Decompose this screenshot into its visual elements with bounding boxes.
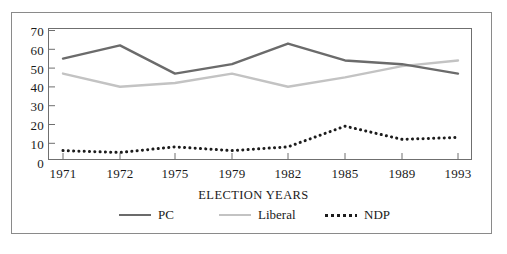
chart-legend: PC Liberal NDP — [0, 208, 507, 230]
legend-label-liberal: Liberal — [258, 208, 296, 222]
x-tick-label: 1982 — [275, 167, 302, 181]
chart-figure: 70 60 50 40 30 20 10 0 — [0, 0, 507, 254]
x-tick-label: 1993 — [445, 167, 472, 181]
x-axis-title: ELECTION YEARS — [0, 188, 507, 203]
legend-swatch-pc-icon — [119, 210, 151, 220]
legend-item-ndp: NDP — [325, 208, 390, 222]
legend-item-liberal: Liberal — [219, 208, 296, 222]
legend-swatch-ndp-icon — [325, 210, 357, 220]
x-axis-ticks — [63, 153, 458, 160]
y-axis-ticks — [48, 31, 55, 144]
y-tick-label: 20 — [18, 119, 44, 132]
chart-plot-svg — [48, 28, 472, 160]
y-tick-label: 60 — [18, 44, 44, 57]
x-tick-label: 1985 — [332, 167, 359, 181]
legend-label-pc: PC — [158, 208, 174, 222]
x-tick-label: 1989 — [389, 167, 416, 181]
y-tick-label: 70 — [18, 25, 44, 38]
legend-item-pc: PC — [119, 208, 174, 222]
series-line-ndp — [63, 126, 458, 152]
legend-label-ndp: NDP — [364, 208, 390, 222]
y-tick-label: 40 — [18, 81, 44, 94]
y-tick-label: 10 — [18, 138, 44, 151]
x-tick-label: 1971 — [50, 167, 77, 181]
x-axis-tick-labels: 1971 1972 1975 1979 1982 1985 1989 1993 — [0, 167, 507, 185]
x-tick-label: 1975 — [162, 167, 189, 181]
legend-swatch-liberal-icon — [219, 210, 251, 220]
x-tick-label: 1979 — [219, 167, 246, 181]
y-tick-label: 30 — [18, 100, 44, 113]
series-line-pc — [63, 44, 458, 74]
x-tick-label: 1972 — [107, 167, 134, 181]
y-tick-label: 50 — [18, 63, 44, 76]
